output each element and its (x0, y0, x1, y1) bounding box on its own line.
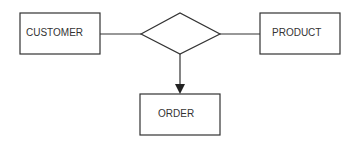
relationship-diamond (141, 13, 220, 54)
entity-product-label: PRODUCT (272, 27, 321, 39)
er-diagram-canvas (0, 0, 356, 142)
entity-order-label: ORDER (158, 108, 194, 120)
arrowhead-icon (175, 84, 185, 94)
entity-customer-label: CUSTOMER (26, 27, 83, 39)
